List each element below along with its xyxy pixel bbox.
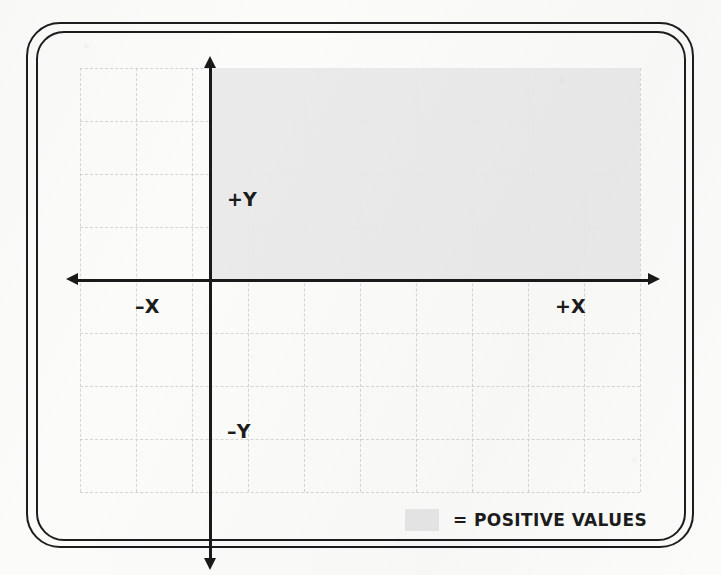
- grid-line-horizontal-8: [80, 492, 640, 493]
- y-axis-line: [209, 66, 212, 560]
- x-axis-negative-arrowhead-icon: [66, 273, 78, 285]
- x-axis-positive-arrowhead-icon: [648, 273, 660, 285]
- legend-label: = POSITIVE VALUES: [453, 510, 647, 530]
- axis-label-negative-y: –Y: [227, 420, 251, 442]
- axis-label-negative-x: –X: [135, 295, 160, 317]
- axis-label-positive-y: +Y: [227, 188, 257, 210]
- coordinate-plane-plot-area: +Y –Y –X +X: [80, 68, 642, 494]
- grid-line-horizontal-7: [80, 439, 640, 440]
- grid-line-horizontal-5: [80, 333, 640, 334]
- y-axis-positive-arrowhead-icon: [204, 56, 216, 68]
- grid-line-horizontal-6: [80, 386, 640, 387]
- legend: = POSITIVE VALUES: [405, 505, 647, 535]
- positive-values-swatch: [405, 509, 439, 531]
- y-axis-negative-arrowhead-icon: [204, 558, 216, 570]
- x-axis-line: [76, 279, 650, 282]
- positive-values-shaded-quadrant: [210, 68, 640, 280]
- axis-label-positive-x: +X: [555, 295, 586, 317]
